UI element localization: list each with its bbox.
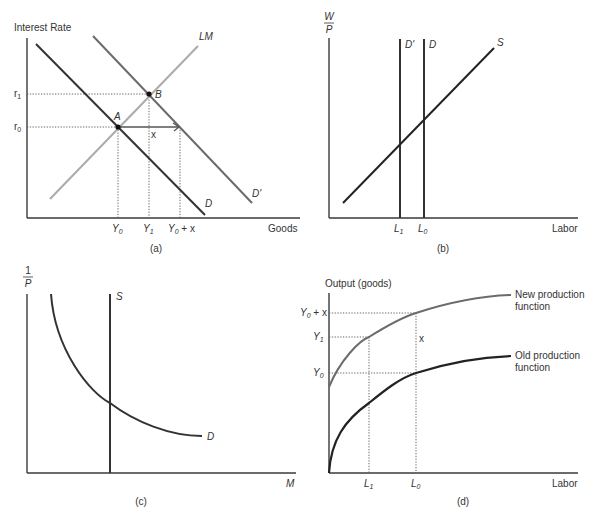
- d-Y1-sub: 1: [320, 336, 324, 343]
- b-xlabel: Labor: [552, 223, 578, 234]
- d-L0-sub: 0: [417, 483, 421, 490]
- c-xlabel: M: [286, 478, 295, 489]
- a-Y0x-tail: + x: [179, 223, 195, 234]
- b-L1-sub: 1: [400, 228, 404, 235]
- b-L0-sub: 0: [424, 228, 428, 235]
- panel-b: W P Labor D' D S L1 L0 (b): [324, 11, 578, 254]
- b-ylabel-den: P: [326, 24, 333, 35]
- panel-a: Interest Rate Goods LM D' D A B x r1 r0 …: [14, 22, 300, 254]
- d-L1-tick: L1: [364, 478, 374, 490]
- d-xlabel: Labor: [552, 478, 578, 489]
- b-L1-tick: L1: [394, 223, 404, 235]
- d-Y0x-tail: + x: [311, 307, 327, 318]
- d-Y1-tick: Y1: [313, 331, 324, 343]
- a-xlabel: Goods: [268, 223, 297, 234]
- b-S-curve: [343, 48, 494, 203]
- a-ylabel: Interest Rate: [14, 22, 72, 33]
- d-L0-tick: L0: [411, 478, 421, 490]
- a-LM-label: LM: [199, 31, 214, 42]
- d-new-label-2: function: [515, 301, 550, 312]
- b-L0-tick: L0: [418, 223, 428, 235]
- a-D-label: D: [205, 198, 212, 209]
- b-S-label: S: [497, 37, 504, 48]
- a-caption: (a): [150, 243, 162, 254]
- c-S-label: S: [116, 291, 123, 302]
- a-B-label: B: [155, 89, 162, 100]
- a-D-curve: [36, 44, 205, 215]
- a-r1-tick: r1: [14, 88, 21, 100]
- d-old-production-curve: [329, 356, 511, 473]
- d-L1-sub: 1: [370, 483, 374, 490]
- d-Y0-sub: 0: [320, 372, 324, 379]
- a-Y1-sub: 1: [150, 228, 154, 235]
- d-ylabel: Output (goods): [325, 278, 392, 289]
- a-Y0-tick: Y0: [112, 223, 123, 235]
- c-ylabel-den: P: [25, 278, 32, 289]
- a-r0-tick: r0: [14, 121, 21, 133]
- a-Y1-tick: Y1: [143, 223, 154, 235]
- four-panel-diagram: Interest Rate Goods LM D' D A B x r1 r0 …: [0, 0, 597, 514]
- c-ylabel-num: 1: [25, 265, 31, 276]
- a-Dprime-label: D': [252, 188, 262, 199]
- b-ylabel-num: W: [324, 11, 335, 22]
- d-old-label-1: Old production: [515, 350, 580, 361]
- b-caption: (b): [437, 243, 449, 254]
- c-D-label: D: [207, 431, 214, 442]
- panel-c: 1 P M S D (c): [23, 265, 296, 507]
- c-caption: (c): [135, 496, 147, 507]
- d-new-label-1: New production: [515, 289, 584, 300]
- d-caption: (d): [457, 496, 469, 507]
- a-A-label: A: [113, 111, 121, 122]
- b-Dprime-label: D': [405, 39, 415, 50]
- d-x-label: x: [419, 333, 424, 344]
- a-Y0-sub: 0: [119, 228, 123, 235]
- a-r1-sub: 1: [17, 93, 21, 100]
- a-point-B: [146, 91, 151, 96]
- a-x-label: x: [151, 129, 156, 140]
- d-old-label-2: function: [515, 362, 550, 373]
- c-D-curve: [51, 294, 202, 436]
- a-Y0x-tick: Y0 + x: [168, 223, 195, 235]
- d-Y0-tick: Y0: [313, 367, 324, 379]
- a-r0-sub: 0: [17, 126, 21, 133]
- a-point-A: [115, 124, 120, 129]
- panel-d: Output (goods) Labor New production func…: [300, 278, 584, 507]
- d-Y0x-tick: Y0 + x: [300, 307, 327, 319]
- b-D-label: D: [429, 39, 436, 50]
